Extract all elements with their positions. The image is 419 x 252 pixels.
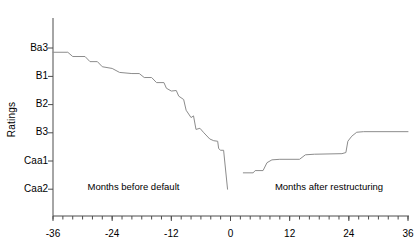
series-line-after-restructuring (243, 132, 408, 173)
x-tick-label-neg24: -24 (92, 228, 132, 239)
y-tick-label-text: Caa1 (2, 155, 48, 166)
y-tick-label-text: Caa2 (2, 183, 48, 194)
x-tick-label-24: 24 (329, 228, 369, 239)
x-tick-label-36: 36 (388, 228, 419, 239)
x-tick-label-neg12: -12 (151, 228, 191, 239)
chart-plot-area (0, 0, 419, 252)
series-line-before-default (53, 52, 228, 189)
y-tick-label-text: B3 (2, 126, 48, 137)
y-axis-major-ticks (48, 48, 53, 189)
y-tick-label-text: B1 (2, 70, 48, 81)
annotation-months-after-restructuring: Months after restructuring (275, 181, 383, 192)
y-tick-label-caa1: Caa1 (0, 155, 48, 167)
y-tick-label-b2: B2 (0, 98, 48, 110)
x-axis-major-ticks (53, 216, 408, 221)
x-tick-label-neg36: -36 (33, 228, 73, 239)
y-tick-label-text: Ba3 (2, 42, 48, 53)
y-tick-label-b1: B1 (0, 70, 48, 82)
y-tick-label-text: B2 (2, 98, 48, 109)
chart-series-lines (53, 52, 408, 189)
y-tick-label-ba3: Ba3 (0, 42, 48, 54)
annotation-months-before-default: Months before default (88, 181, 180, 192)
y-tick-label-caa2: Caa2 (0, 183, 48, 195)
x-tick-label-0: 0 (211, 228, 251, 239)
y-tick-label-b3: B3 (0, 126, 48, 138)
ratings-migration-chart: Ratings Ba3B1B2B3Caa1Caa2 -36-24-1201224… (0, 0, 419, 252)
x-tick-label-12: 12 (270, 228, 310, 239)
